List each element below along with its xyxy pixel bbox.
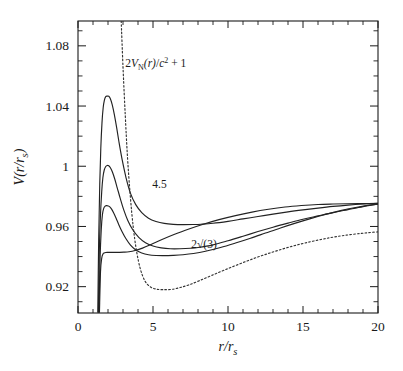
- x-axis-title-main: r/r: [219, 339, 234, 354]
- y-tick-label: 1.04: [45, 99, 69, 114]
- curve-label-2sqrt3: 2√(3): [191, 238, 217, 251]
- y-tick-label: 1.08: [45, 38, 69, 53]
- x-tick-label: 15: [296, 319, 310, 334]
- figure-background: [0, 0, 403, 371]
- x-axis-title-subscript: s: [233, 346, 237, 357]
- x-tick-label: 0: [75, 319, 82, 334]
- y-axis-title-main: V(r/r: [12, 157, 28, 186]
- y-tick-label: 0.96: [45, 219, 69, 234]
- x-tick-label: 20: [371, 319, 385, 334]
- figure-canvas: 05101520 0.920.9611.041.08 2VN(r)/c2 + 1…: [0, 0, 403, 371]
- y-tick-label: 1: [62, 159, 69, 174]
- curve-label-4point5: 4.5: [152, 178, 167, 190]
- y-tick-label: 0.92: [45, 279, 69, 294]
- y-axis-title-close: ): [12, 148, 28, 154]
- x-tick-label: 10: [221, 319, 235, 334]
- x-tick-label: 5: [150, 319, 157, 334]
